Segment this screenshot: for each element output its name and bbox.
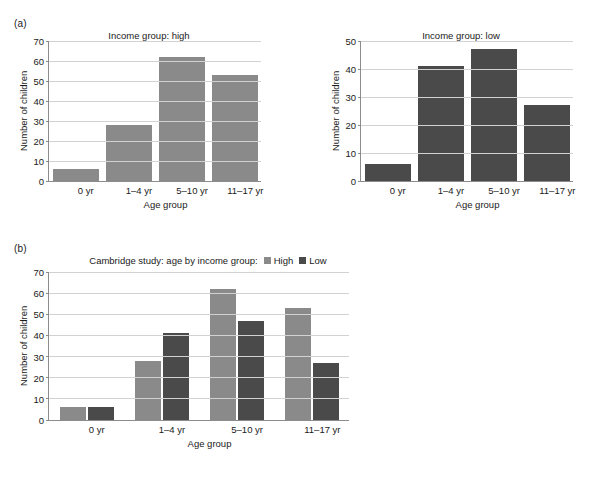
legend-entry-high[interactable]: High xyxy=(264,255,294,266)
chart-income-low: Income group: low Number of children 010… xyxy=(330,30,592,210)
bars-layer-income-low xyxy=(361,41,573,181)
x-tick-label: 1–4 yr xyxy=(112,185,165,196)
chart-title-combined: Cambridge study: age by income group: xyxy=(89,255,257,266)
y-tick-label: 40 xyxy=(33,330,44,341)
legend-swatch-low-icon xyxy=(299,257,306,264)
bar[interactable] xyxy=(212,75,258,181)
chart-legend-combined: Cambridge study: age by income group: Hi… xyxy=(18,255,398,266)
legend-label-high: High xyxy=(274,255,294,266)
gridline xyxy=(361,97,573,98)
y-tick-label: 50 xyxy=(33,76,44,87)
gridline xyxy=(49,314,349,315)
gridline xyxy=(49,335,349,336)
gridline xyxy=(49,161,261,162)
x-tick-label: 11–17 yr xyxy=(285,424,360,435)
y-axis-label-income-low: Number of children xyxy=(330,41,341,181)
y-tick-label: 10 xyxy=(33,393,44,404)
y-tick-mark xyxy=(46,335,49,336)
y-tick-mark xyxy=(358,181,361,182)
y-tick-mark xyxy=(46,141,49,142)
plot-area-income-low xyxy=(360,41,573,182)
bar[interactable] xyxy=(159,57,205,181)
y-tick-label: 60 xyxy=(33,56,44,67)
x-axis-ticks-income-low: 0 yr1–4 yr5–10 yr11–17 yr xyxy=(371,185,584,196)
y-axis-label-income-high: Number of children xyxy=(18,41,29,181)
x-tick-label: 1–4 yr xyxy=(134,424,209,435)
y-tick-mark xyxy=(46,398,49,399)
y-axis-label-combined: Number of children xyxy=(18,272,29,420)
x-tick-label: 11–17 yr xyxy=(531,185,584,196)
x-tick-label: 5–10 yr xyxy=(210,424,285,435)
gridline xyxy=(49,272,349,273)
y-tick-label: 0 xyxy=(39,415,44,426)
bar[interactable] xyxy=(106,125,152,181)
x-tick-label: 1–4 yr xyxy=(424,185,477,196)
y-tick-label: 10 xyxy=(33,156,44,167)
y-tick-mark xyxy=(358,97,361,98)
legend-entry-low[interactable]: Low xyxy=(299,255,326,266)
y-tick-label: 50 xyxy=(33,309,44,320)
gridline xyxy=(49,41,261,42)
gridline xyxy=(361,41,573,42)
y-tick-mark xyxy=(46,101,49,102)
y-tick-mark xyxy=(46,161,49,162)
bar[interactable] xyxy=(365,164,411,181)
x-tick-label: 5–10 yr xyxy=(166,185,219,196)
bar[interactable] xyxy=(524,105,570,181)
y-tick-label: 20 xyxy=(33,372,44,383)
x-axis-ticks-combined: 0 yr1–4 yr5–10 yr11–17 yr xyxy=(59,424,360,435)
gridline xyxy=(49,61,261,62)
y-tick-mark xyxy=(46,420,49,421)
plot-area-combined xyxy=(48,272,349,421)
y-tick-label: 50 xyxy=(345,36,356,47)
chart-title-income-low: Income group: low xyxy=(330,30,592,41)
y-tick-label: 10 xyxy=(345,148,356,159)
x-tick-label: 0 yr xyxy=(59,185,112,196)
chart-title-income-high: Income group: high xyxy=(18,30,280,41)
bar[interactable] xyxy=(88,407,114,420)
y-tick-label: 60 xyxy=(33,288,44,299)
gridline xyxy=(49,377,349,378)
legend-label-low: Low xyxy=(309,255,326,266)
bar-group xyxy=(467,41,520,181)
chart-income-high: Income group: high Number of children 01… xyxy=(18,30,280,210)
gridline xyxy=(49,141,261,142)
y-tick-mark xyxy=(46,61,49,62)
y-tick-label: 30 xyxy=(33,116,44,127)
y-tick-mark xyxy=(46,356,49,357)
x-tick-label: 5–10 yr xyxy=(478,185,531,196)
gridline xyxy=(49,356,349,357)
y-tick-label: 70 xyxy=(33,267,44,278)
gridline xyxy=(361,69,573,70)
gridline xyxy=(49,81,261,82)
y-tick-label: 40 xyxy=(345,64,356,75)
y-tick-mark xyxy=(46,314,49,315)
y-tick-mark xyxy=(358,125,361,126)
y-tick-mark xyxy=(46,293,49,294)
y-axis-ticks-income-low: 01020304050 xyxy=(341,41,360,181)
bar-group xyxy=(361,41,414,181)
x-tick-label: 11–17 yr xyxy=(219,185,272,196)
y-tick-label: 0 xyxy=(39,176,44,187)
y-tick-mark xyxy=(46,41,49,42)
x-axis-label-income-high: Age group xyxy=(59,199,272,210)
x-tick-label: 0 yr xyxy=(59,424,134,435)
gridline xyxy=(49,121,261,122)
y-tick-label: 20 xyxy=(33,136,44,147)
bar[interactable] xyxy=(210,289,236,420)
y-tick-label: 40 xyxy=(33,96,44,107)
bar-group xyxy=(414,41,467,181)
y-tick-mark xyxy=(46,121,49,122)
y-tick-mark xyxy=(358,153,361,154)
y-tick-mark xyxy=(46,81,49,82)
bar[interactable] xyxy=(285,308,311,420)
legend-swatch-high-icon xyxy=(264,257,271,264)
bar[interactable] xyxy=(313,363,339,420)
bar[interactable] xyxy=(53,169,99,181)
gridline xyxy=(49,293,349,294)
bar[interactable] xyxy=(60,407,86,420)
y-tick-label: 20 xyxy=(345,120,356,131)
bar[interactable] xyxy=(135,361,161,420)
y-tick-mark xyxy=(358,41,361,42)
y-tick-mark xyxy=(46,181,49,182)
